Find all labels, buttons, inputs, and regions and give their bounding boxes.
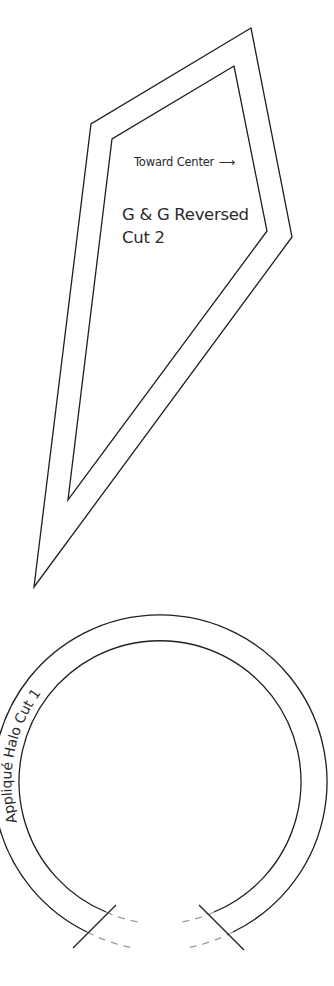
template-g: Toward Center ⟶ G & G Reversed Cut 2 — [34, 28, 292, 587]
toward-center-label: Toward Center ⟶ — [133, 155, 235, 169]
template-g-cut-instruction: Cut 2 — [122, 228, 165, 247]
template-g-name: G & G Reversed — [122, 205, 249, 224]
halo-outer-dashed-left — [87, 932, 133, 948]
template-g-seam-allowance-outline — [34, 28, 292, 587]
halo-outer-circle — [0, 615, 327, 932]
template-halo: Appliqué Halo Cut 1 — [0, 615, 327, 950]
pattern-canvas: Toward Center ⟶ G & G Reversed Cut 2 — [0, 0, 334, 986]
halo-inner-circle — [19, 641, 301, 912]
pattern-page: Toward Center ⟶ G & G Reversed Cut 2 — [0, 0, 334, 986]
halo-inner-dashed-left — [106, 912, 138, 922]
halo-cut-line-left — [73, 905, 116, 948]
halo-outer-dashed-right — [187, 932, 233, 948]
right-arrow-icon: ⟶ — [219, 155, 235, 169]
template-g-finished-outline — [68, 66, 267, 500]
halo-inner-dashed-right — [182, 912, 214, 922]
